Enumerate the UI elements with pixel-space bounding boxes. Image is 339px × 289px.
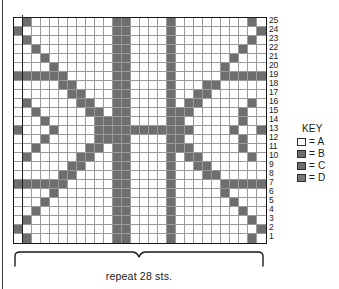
chart-cell — [41, 144, 50, 153]
chart-cell — [95, 63, 104, 72]
chart-cell — [230, 135, 239, 144]
chart-cell — [203, 207, 212, 216]
chart-cell — [239, 72, 248, 81]
chart-cell — [95, 144, 104, 153]
chart-cell — [113, 135, 122, 144]
chart-cell — [176, 207, 185, 216]
chart-cell — [257, 54, 266, 63]
chart-cell — [149, 45, 158, 54]
chart-cell — [257, 153, 266, 162]
key-entry-label: = B — [309, 148, 325, 159]
chart-cell — [176, 108, 185, 117]
chart-cell — [122, 171, 131, 180]
chart-cell — [158, 225, 167, 234]
chart-cell — [149, 81, 158, 90]
chart-cell — [185, 63, 194, 72]
chart-cell — [185, 144, 194, 153]
chart-cell — [131, 126, 140, 135]
chart-cell — [149, 180, 158, 189]
chart-cell — [194, 234, 203, 243]
chart-cell — [113, 216, 122, 225]
chart-cell — [140, 234, 149, 243]
chart-cell — [68, 90, 77, 99]
chart-cell — [50, 234, 59, 243]
chart-cell — [257, 171, 266, 180]
chart-cell — [41, 27, 50, 36]
chart-cell — [50, 198, 59, 207]
chart-cell — [41, 216, 50, 225]
chart-cell — [239, 198, 248, 207]
chart-cell — [158, 108, 167, 117]
chart-cell — [176, 18, 185, 27]
chart-cell — [212, 72, 221, 81]
chart-cell — [113, 36, 122, 45]
chart-cell — [32, 234, 41, 243]
chart-cell — [149, 234, 158, 243]
chart-cell — [176, 180, 185, 189]
chart-cell — [104, 180, 113, 189]
chart-cell — [95, 108, 104, 117]
chart-cell — [32, 54, 41, 63]
chart-cell — [221, 207, 230, 216]
chart-cell — [68, 153, 77, 162]
chart-cell — [140, 180, 149, 189]
chart-cell — [158, 63, 167, 72]
chart-cell — [230, 216, 239, 225]
chart-cell — [77, 90, 86, 99]
chart-cell — [131, 18, 140, 27]
chart-cell — [131, 108, 140, 117]
chart-cell — [194, 90, 203, 99]
chart-cell — [257, 45, 266, 54]
chart-cell — [77, 135, 86, 144]
chart-cell — [50, 126, 59, 135]
chart-cell — [23, 225, 32, 234]
chart-cell — [131, 225, 140, 234]
chart-cell — [86, 153, 95, 162]
chart-cell — [212, 81, 221, 90]
chart-cell — [131, 99, 140, 108]
chart-cell — [257, 63, 266, 72]
chart-cell — [50, 180, 59, 189]
chart-row — [14, 36, 266, 45]
chart-cell — [86, 180, 95, 189]
chart-cell — [113, 126, 122, 135]
chart-cell — [185, 27, 194, 36]
chart-cell — [185, 189, 194, 198]
chart-cell — [95, 54, 104, 63]
chart-cell — [248, 36, 257, 45]
chart-cell — [59, 171, 68, 180]
chart-cell — [176, 225, 185, 234]
chart-cell — [167, 18, 176, 27]
chart-cell — [95, 135, 104, 144]
chart-cell — [185, 234, 194, 243]
chart-cell — [32, 108, 41, 117]
chart-cell — [122, 198, 131, 207]
chart-cell — [104, 198, 113, 207]
chart-cell — [113, 54, 122, 63]
chart-cell — [104, 63, 113, 72]
chart-cell — [32, 216, 41, 225]
chart-cell — [77, 180, 86, 189]
chart-cell — [212, 180, 221, 189]
chart-cell — [86, 162, 95, 171]
chart-cell — [167, 162, 176, 171]
chart-cell — [185, 135, 194, 144]
chart-cell — [23, 99, 32, 108]
chart-cell — [230, 45, 239, 54]
chart-cell — [248, 117, 257, 126]
chart-cell — [23, 135, 32, 144]
chart-cell — [248, 153, 257, 162]
chart-cell — [131, 162, 140, 171]
chart-cell — [95, 207, 104, 216]
chart-cell — [194, 144, 203, 153]
chart-cell — [23, 45, 32, 54]
chart-cell — [50, 162, 59, 171]
key-swatch-c — [297, 162, 306, 170]
chart-cell — [140, 99, 149, 108]
chart-cell — [23, 162, 32, 171]
chart-cell — [149, 63, 158, 72]
chart-cell — [41, 171, 50, 180]
chart-cell — [203, 27, 212, 36]
chart-row — [14, 171, 266, 180]
chart-cell — [176, 90, 185, 99]
